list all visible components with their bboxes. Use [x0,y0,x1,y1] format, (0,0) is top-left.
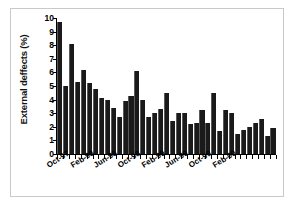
bar [93,89,98,154]
x-axis-tick-mark [229,155,230,159]
bar [123,101,128,154]
y-axis-tick-mark [53,127,56,128]
x-axis-tick-mark [110,155,111,159]
x-axis-tick-mark [276,155,277,159]
bar [253,123,258,154]
bar [259,119,264,154]
bar [194,123,199,154]
x-axis-tick-mark [187,155,188,159]
y-axis-tick-label: 9 [38,27,54,36]
x-axis-tick-mark [63,155,64,159]
bar [87,83,92,154]
bar [170,121,175,154]
bar [63,86,68,154]
bar [164,93,169,154]
x-axis-tick-mark [87,155,88,159]
x-axis-tick-mark [57,155,58,159]
chart-figure: External deffects (%) 012345678910 Oct-9… [0,0,294,205]
bar [235,134,240,154]
x-axis-tick-mark [81,155,82,159]
x-axis-tick-mark [205,155,206,159]
bar [140,100,145,154]
x-axis-tick-mark [223,155,224,159]
x-axis-tick-mark [152,155,153,159]
bar [152,113,157,154]
y-axis-tick-label: 1 [38,136,54,145]
y-axis-tick-label: 2 [38,123,54,132]
x-axis-tick-mark [158,155,159,159]
x-axis-tick-mark [175,155,176,159]
y-axis-tick-mark [53,154,56,155]
x-axis-tick-mark [270,155,271,159]
bar [99,98,104,154]
y-axis-tick-labels: 012345678910 [36,18,54,155]
x-axis-tick-mark [193,155,194,159]
y-axis-tick-mark [53,72,56,73]
x-axis-tick-mark [258,155,259,159]
bar [69,44,74,154]
y-axis-tick-label: 10 [38,14,54,23]
y-axis-tick-mark [53,86,56,87]
x-axis-tick-mark [93,155,94,159]
bar [105,100,110,154]
bar [117,117,122,154]
bar [223,110,228,154]
bar [81,70,86,154]
bar [188,124,193,154]
x-axis-line [56,154,276,155]
x-axis-tick-mark [246,155,247,159]
y-axis-title: External deffects (%) [18,20,29,140]
bar [229,113,234,154]
bar [182,113,187,154]
bar [217,131,222,154]
x-axis-tick-mark [122,155,123,159]
bar [205,123,210,154]
y-axis-tick-mark [53,32,56,33]
x-axis-tick-mark [211,155,212,159]
x-axis-tick-mark [104,155,105,159]
x-axis-tick-mark [128,155,129,159]
x-axis-tick-mark [116,155,117,159]
x-axis-tick-mark [164,155,165,159]
y-axis-tick-mark [53,45,56,46]
y-axis-tick-label: 3 [38,109,54,118]
bar [111,108,116,154]
bar [75,82,80,154]
x-axis-tick-mark [217,155,218,159]
bar [199,110,204,154]
y-axis-tick-label: 4 [38,95,54,104]
x-axis-tick-mark [264,155,265,159]
bar [241,130,246,154]
bar [128,96,133,154]
y-axis-tick-mark [53,59,56,60]
bar [211,93,216,154]
bar [247,127,252,154]
bar [265,136,270,154]
bar [146,117,151,154]
bar [158,109,163,154]
y-axis-tick-label: 6 [38,68,54,77]
x-axis-tick-mark [181,155,182,159]
plot-area [57,18,276,154]
y-axis-tick-mark [53,113,56,114]
y-axis-tick-mark [53,140,56,141]
x-axis-tick-mark [140,155,141,159]
x-axis-tick-mark [134,155,135,159]
x-axis-tick-mark [169,155,170,159]
x-axis-tick-mark [146,155,147,159]
x-axis-tick-mark [240,155,241,159]
x-axis-tick-mark [252,155,253,159]
x-axis-tick-mark [199,155,200,159]
y-axis-tick-label: 0 [38,150,54,159]
x-axis-tick-mark [235,155,236,159]
bar [270,128,275,154]
y-axis-tick-mark [53,100,56,101]
bar [134,71,139,154]
y-axis-tick-mark [53,18,56,19]
x-axis-tick-mark [69,155,70,159]
x-axis-tick-mark [98,155,99,159]
bar [57,22,62,154]
bar [176,113,181,154]
y-axis-tick-label: 5 [38,82,54,91]
x-axis-tick-mark [75,155,76,159]
